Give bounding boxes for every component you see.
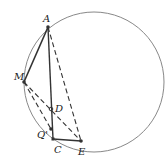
label-A: A [42, 13, 50, 24]
segment-CE [53, 139, 81, 141]
point-C [52, 138, 55, 141]
diagram-svg: A M D Q' C E [0, 0, 165, 163]
label-D: D [54, 103, 63, 114]
segment-AC [48, 27, 53, 139]
point-E [79, 139, 83, 143]
geometry-diagram: A M D Q' C E [0, 0, 165, 163]
label-C: C [54, 144, 62, 155]
label-M: M [13, 71, 25, 82]
label-Q: Q' [37, 129, 48, 140]
point-A [46, 25, 50, 29]
segment-AM [24, 27, 48, 82]
point-Q [49, 127, 53, 131]
label-E: E [77, 146, 86, 157]
